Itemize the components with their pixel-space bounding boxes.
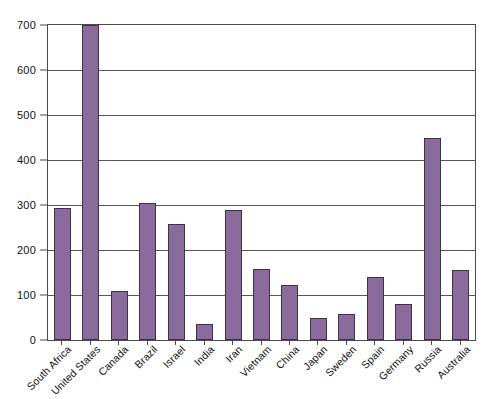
bar xyxy=(111,291,128,340)
bar xyxy=(139,203,156,340)
bar xyxy=(168,224,185,340)
x-tick-mark xyxy=(147,341,148,345)
bar-chart: 0100200300400500600700 South AfricaUnite… xyxy=(0,0,492,399)
y-axis: 0100200300400500600700 xyxy=(0,24,47,341)
bar xyxy=(424,138,441,340)
bar xyxy=(452,270,469,340)
plot-inner xyxy=(48,25,475,340)
bar xyxy=(367,277,384,340)
x-tick-label: Brazil xyxy=(132,343,159,370)
x-tick-mark xyxy=(460,341,461,345)
y-tick-label: 0 xyxy=(30,334,36,346)
x-tick-mark xyxy=(204,341,205,345)
bar xyxy=(253,269,270,340)
x-tick-mark xyxy=(261,341,262,345)
y-tick-label: 400 xyxy=(17,154,36,166)
bar xyxy=(54,208,71,340)
y-tick-mark xyxy=(40,295,47,296)
x-tick-mark xyxy=(90,341,91,345)
x-tick-label: Canada xyxy=(96,343,131,378)
y-tick-label: 600 xyxy=(17,64,36,76)
y-tick-mark xyxy=(40,115,47,116)
y-tick-mark xyxy=(40,25,47,26)
x-tick-label: India xyxy=(191,343,216,368)
bar xyxy=(281,285,298,340)
y-tick-mark xyxy=(40,160,47,161)
y-tick-label: 300 xyxy=(17,199,36,211)
y-tick-mark xyxy=(40,250,47,251)
y-tick-mark xyxy=(40,205,47,206)
bar xyxy=(310,318,327,341)
bar xyxy=(82,25,99,340)
x-axis: South AfricaUnited StatesCanadaBrazilIsr… xyxy=(47,343,476,399)
bar xyxy=(196,324,213,340)
y-tick-mark xyxy=(40,340,47,341)
x-tick-label: Israel xyxy=(161,343,188,370)
x-tick-label: China xyxy=(273,343,301,371)
bar xyxy=(225,210,242,340)
x-tick-label: Sweden xyxy=(323,343,359,379)
x-tick-label: Iran xyxy=(223,343,245,365)
y-tick-label: 100 xyxy=(17,289,36,301)
y-tick-label: 500 xyxy=(17,109,36,121)
y-tick-label: 200 xyxy=(17,244,36,256)
bar xyxy=(395,304,412,340)
bars-series xyxy=(48,25,475,340)
y-tick-label: 700 xyxy=(17,19,36,31)
y-tick-mark xyxy=(40,70,47,71)
plot-area xyxy=(47,24,476,341)
bar xyxy=(338,314,355,340)
